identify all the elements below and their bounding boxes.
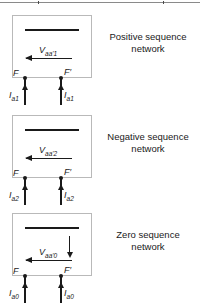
voltage-arrow-positive [26,58,72,59]
sequence-network-block-negative: Vaa'2 F F′ Ia2 Ia2 Negative sequence net… [0,112,200,210]
network-bar-negative [25,129,79,131]
arrow-head-left-icon [25,257,32,263]
network-bar-positive [25,29,79,31]
current-lead-right-zero [60,276,62,303]
sequence-network-block-positive: Vaa'1 F F′ Ia1 Ia1 Positive sequence net… [0,12,200,110]
current-subscript: a0 [12,293,19,300]
current-arrow-head-left-positive [22,84,28,90]
caption-negative: Negative sequence network [102,131,194,154]
terminal-label-fprime-zero: F′ [64,265,71,275]
current-arrow-head-left-zero [22,282,28,288]
current-subscript: a2 [67,195,74,202]
ground-current-arrow-head-zero [67,252,73,258]
current-subscript: a0 [67,293,74,300]
current-lead-right-positive [60,78,62,105]
caption-zero: Zero sequence network [102,229,194,252]
voltage-subscript: aa'0 [45,252,57,259]
terminal-label-f-positive: F [13,68,19,78]
current-lead-left-negative [24,178,26,205]
current-label-left-zero: Ia0 [9,288,19,300]
network-box-zero [12,213,92,276]
terminal-label-f-zero: F [13,266,19,276]
current-lead-left-positive [24,78,26,105]
voltage-subscript: aa'2 [45,150,57,157]
terminal-label-fprime-negative: F′ [64,167,71,177]
current-subscript: a1 [67,95,74,102]
current-subscript: a2 [12,195,19,202]
current-subscript: a1 [12,95,19,102]
rule-tick [163,1,164,4]
voltage-arrow-negative [26,158,72,159]
terminal-label-fprime-positive: F′ [64,67,71,77]
voltage-label-positive: Vaa'1 [39,45,57,57]
rule-tick [38,1,39,4]
current-label-right-positive: Ia1 [64,90,74,102]
current-label-left-positive: Ia1 [9,90,19,102]
caption-positive: Positive sequence network [102,31,194,54]
figure-canvas: Vaa'1 F F′ Ia1 Ia1 Positive sequence net… [0,0,200,306]
top-divider-rule [0,2,200,3]
current-label-left-negative: Ia2 [9,190,19,202]
current-lead-right-negative [60,178,62,205]
current-label-right-zero: Ia0 [64,288,74,300]
arrow-head-left-icon [25,155,32,161]
current-lead-left-zero [24,276,26,303]
voltage-arrow-zero [26,260,72,261]
voltage-label-zero: Vaa'0 [39,247,57,259]
arrow-head-left-icon [25,55,32,61]
sequence-network-block-zero: Vaa'0 F F′ Ia0 Ia0 Zero sequence network [0,210,200,306]
network-bar-zero [25,227,79,229]
terminal-label-f-negative: F [13,168,19,178]
voltage-label-negative: Vaa'2 [39,145,57,157]
current-arrow-head-left-negative [22,184,28,190]
current-label-right-negative: Ia2 [64,190,74,202]
voltage-subscript: aa'1 [45,50,57,57]
